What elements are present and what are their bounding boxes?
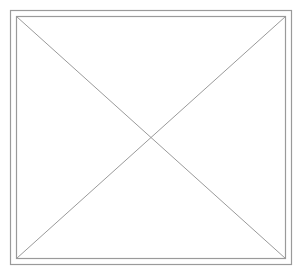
placeholder-figure [0,0,300,272]
